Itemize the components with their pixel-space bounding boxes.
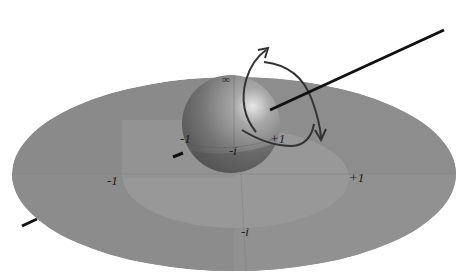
label-sphere-minus-one: -1 xyxy=(180,131,191,146)
riemann-sphere-diagram: ∞ -1 -i +1 -1 +1 -i xyxy=(0,0,468,279)
label-plane-minus-one: -1 xyxy=(107,173,118,188)
label-infinity: ∞ xyxy=(222,73,230,85)
label-sphere-minus-i: -i xyxy=(229,143,237,158)
label-plane-plus-one: +1 xyxy=(349,170,364,185)
label-plane-minus-i: -i xyxy=(241,224,249,239)
label-sphere-plus-one: +1 xyxy=(270,131,285,146)
